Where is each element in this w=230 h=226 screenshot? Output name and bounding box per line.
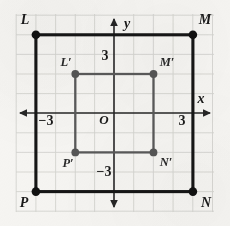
vertex-point-N-prime	[150, 149, 158, 157]
vertex-point-P	[32, 187, 41, 196]
origin-label: O	[99, 112, 109, 127]
y-tick-label-3: 3	[102, 48, 109, 63]
coordinate-plane-figure: y x O −3 3 3 −3 L M N P L′ M′ N′ P′	[0, 0, 230, 226]
vertex-label-N-prime: N′	[159, 155, 173, 169]
vertex-point-M	[189, 31, 198, 40]
vertex-label-L-prime: L′	[59, 55, 71, 69]
vertex-label-P: P	[20, 195, 29, 210]
y-axis-label: y	[122, 16, 131, 31]
vertex-point-N	[189, 187, 198, 196]
vertex-label-M-prime: M′	[159, 55, 175, 69]
vertex-label-L: L	[20, 12, 30, 27]
y-tick-label-negative-3: −3	[97, 164, 112, 179]
vertex-point-M-prime	[150, 70, 158, 78]
vertex-label-M: M	[198, 12, 212, 27]
coordinate-plane-svg: y x O −3 3 3 −3 L M N P L′ M′ N′ P′	[0, 0, 230, 226]
x-tick-label-negative-3: −3	[39, 113, 54, 128]
vertex-point-L-prime	[71, 70, 79, 78]
vertex-point-L	[32, 31, 41, 40]
vertex-label-P-prime: P′	[62, 156, 73, 170]
x-tick-label-3: 3	[179, 113, 186, 128]
x-axis-label: x	[197, 91, 205, 106]
vertex-label-N: N	[200, 195, 212, 210]
